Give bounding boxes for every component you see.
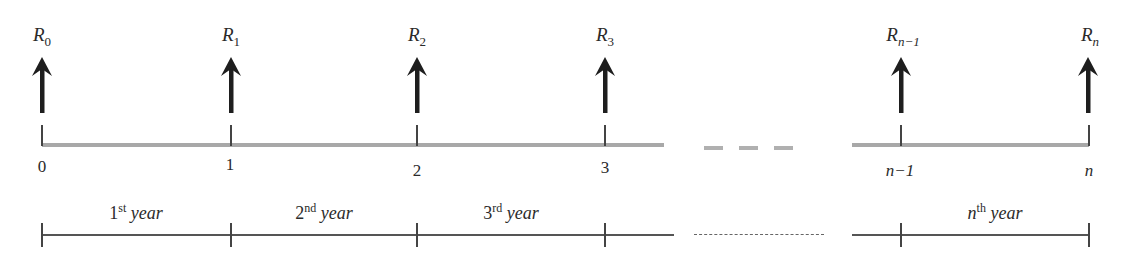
time-label-0: 0 bbox=[38, 157, 47, 177]
up-arrow-icon bbox=[595, 55, 615, 113]
period-line-ellipsis bbox=[694, 234, 824, 235]
timeline-tick bbox=[230, 125, 232, 146]
timeline-tick bbox=[1088, 125, 1090, 146]
timeline-tick bbox=[416, 125, 418, 146]
period-label-3rd-year: 3rd year bbox=[483, 201, 538, 224]
period-tick bbox=[900, 223, 902, 247]
time-label-3: 3 bbox=[601, 158, 610, 178]
up-arrow-icon bbox=[1078, 55, 1098, 113]
time-label-n: n bbox=[1085, 161, 1094, 181]
up-arrow-icon bbox=[891, 55, 911, 113]
period-label-1st-year: 1st year bbox=[109, 201, 163, 224]
period-tick bbox=[416, 223, 418, 247]
timeline-ellipsis-dash bbox=[704, 146, 723, 150]
cash-flow-label-r0: R0 bbox=[33, 24, 51, 50]
timeline-tick bbox=[41, 125, 43, 146]
timeline-tick bbox=[604, 125, 606, 146]
time-label-1: 1 bbox=[226, 155, 235, 175]
cash-flow-label-r1: R1 bbox=[222, 24, 240, 50]
period-line-right bbox=[852, 234, 1089, 236]
up-arrow-icon bbox=[407, 55, 427, 113]
period-label-2nd-year: 2nd year bbox=[295, 201, 352, 224]
period-tick bbox=[41, 223, 43, 247]
period-tick bbox=[604, 223, 606, 247]
up-arrow-icon bbox=[32, 55, 52, 113]
period-line-left bbox=[42, 234, 674, 236]
time-label-2: 2 bbox=[413, 161, 422, 181]
period-tick bbox=[1088, 223, 1090, 247]
period-tick bbox=[230, 223, 232, 247]
timeline-ellipsis-dash bbox=[739, 146, 758, 150]
cash-flow-label-r3: R3 bbox=[596, 24, 614, 50]
period-label-nth-year: nth year bbox=[968, 201, 1023, 224]
timeline-bar-left bbox=[42, 143, 664, 147]
cash-flow-label-rn-minus-1: Rn−1 bbox=[886, 24, 919, 50]
timeline-ellipsis-dash bbox=[774, 146, 793, 150]
cash-flow-label-r2: R2 bbox=[408, 24, 426, 50]
up-arrow-icon bbox=[221, 55, 241, 113]
time-label-n-minus-1: n−1 bbox=[886, 161, 914, 181]
timeline-bar-right bbox=[852, 143, 1089, 147]
timeline-tick bbox=[900, 125, 902, 146]
cash-flow-label-rn: Rn bbox=[1081, 24, 1099, 50]
